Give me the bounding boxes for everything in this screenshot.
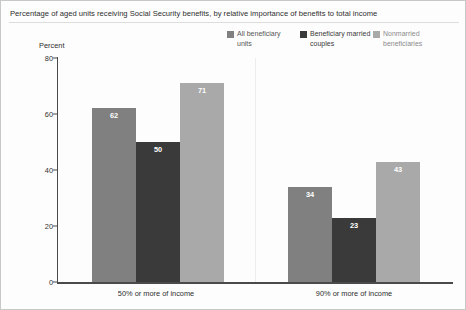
bar-value-label: 50 bbox=[136, 145, 180, 154]
y-axis-tick-mark bbox=[53, 226, 57, 227]
plot-area: Percent 02040608062507150% or more of in… bbox=[1, 1, 466, 310]
chart-figure: Percentage of aged units receiving Socia… bbox=[0, 0, 466, 310]
bar: 62 bbox=[92, 108, 136, 282]
bar: 34 bbox=[288, 187, 332, 282]
bar: 23 bbox=[332, 218, 376, 282]
y-axis-tick-mark bbox=[53, 170, 57, 171]
bars-container: 02040608062507150% or more of income3423… bbox=[57, 58, 453, 282]
x-axis-line bbox=[57, 282, 453, 284]
y-axis-tick-label: 80 bbox=[45, 54, 53, 63]
category-separator bbox=[255, 58, 256, 282]
x-axis-category-label: 90% or more of income bbox=[316, 289, 392, 298]
bar: 71 bbox=[180, 83, 224, 282]
y-axis-tick-mark bbox=[53, 282, 57, 283]
bar-value-label: 34 bbox=[288, 190, 332, 199]
bar-value-label: 62 bbox=[92, 111, 136, 120]
bar-value-label: 23 bbox=[332, 221, 376, 230]
bar-value-label: 71 bbox=[180, 86, 224, 95]
y-axis-label: Percent bbox=[39, 41, 64, 50]
y-axis-tick-mark bbox=[53, 58, 57, 59]
bar: 43 bbox=[376, 162, 420, 282]
y-axis-tick-label: 40 bbox=[45, 166, 53, 175]
x-axis-category-label: 50% or more of income bbox=[118, 289, 194, 298]
y-axis-tick-label: 20 bbox=[45, 222, 53, 231]
y-axis-tick-mark bbox=[53, 114, 57, 115]
bar: 50 bbox=[136, 142, 180, 282]
y-axis-tick-label: 60 bbox=[45, 110, 53, 119]
bar-value-label: 43 bbox=[376, 165, 420, 174]
